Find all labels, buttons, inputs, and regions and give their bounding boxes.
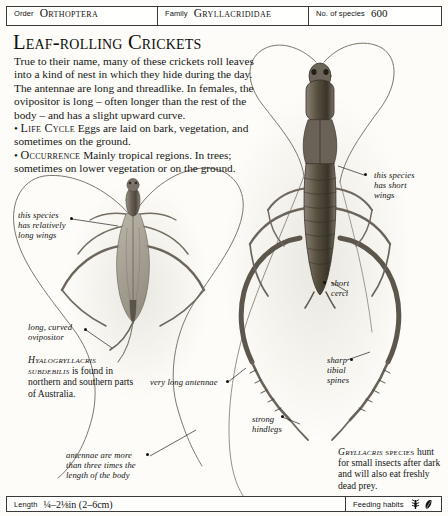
annotation-long-wings: this species has relatively long wings — [18, 210, 66, 240]
annotation-dot-antennae — [226, 380, 229, 383]
feeding-habits-icons — [411, 499, 433, 510]
life-cycle-bullet: • — [14, 122, 21, 134]
occurrence-bullet: • — [14, 149, 21, 161]
annotation-dot-short-wings — [364, 173, 367, 176]
length-label: Length — [14, 500, 38, 509]
life-cycle-heading: Life Cycle — [21, 121, 75, 135]
leaf-icon — [424, 499, 433, 510]
annotation-dot-antennae-length — [146, 453, 149, 456]
annotation-dot-cerci — [323, 281, 326, 284]
family-label: Family — [165, 9, 188, 18]
annotation-ovipositor: long, curved ovipositor — [28, 322, 72, 342]
family-value: Gryllacrididae — [194, 7, 272, 19]
annotation-very-long-antennae: very long antennae — [150, 377, 218, 387]
annotation-short-cerci: short cerci — [331, 278, 349, 298]
description-body: True to their name, many of these cricke… — [14, 55, 257, 176]
annotation-dot-hindlegs — [281, 415, 284, 418]
annotation-tibial-spines: sharp tibial spines — [327, 355, 349, 385]
order-label: Order — [14, 9, 34, 18]
order-cell: Order Orthoptera — [7, 7, 157, 25]
species-count-cell: No. of species 600 — [308, 7, 441, 25]
length-value: ¼–2⅛in (2–6cm) — [44, 499, 113, 510]
caption-right-species-name: Gryllacris — [338, 446, 383, 457]
occurrence-heading: Occurrence — [21, 148, 81, 162]
annotation-dot-ovipositor — [84, 328, 87, 331]
annotation-dot-long-wings — [70, 217, 73, 220]
species-count-label: No. of species — [316, 9, 365, 18]
feeding-habits-label: Feeding habits — [353, 500, 404, 509]
field-guide-page: Order Orthoptera Family Gryllacrididae N… — [0, 0, 448, 516]
leader-lines — [72, 166, 370, 456]
intro-paragraph: True to their name, many of these cricke… — [14, 55, 257, 122]
annotation-dot-tibial-spines — [350, 358, 353, 361]
caption-right-species-suffix: species — [385, 446, 414, 457]
insect-prey-icon — [411, 499, 420, 510]
caption-left-species: Hyalogryllacris subdebilis is found in n… — [28, 354, 140, 399]
life-cycle-paragraph: • Life Cycle Eggs are laid on bark, vege… — [14, 122, 257, 149]
measurements-footer: Length ¼–2⅛in (2–6cm) Feeding habits — [6, 496, 442, 512]
feeding-habits-cell: Feeding habits — [345, 497, 441, 511]
taxonomy-header: Order Orthoptera Family Gryllacrididae N… — [6, 6, 442, 26]
caption-right-species: Gryllacris species hunt for small insect… — [338, 446, 443, 491]
occurrence-paragraph: • Occurrence Mainly tropical regions. In… — [14, 149, 257, 176]
annotation-hindlegs: strong hindlegs — [252, 414, 282, 434]
family-cell: Family Gryllacrididae — [157, 7, 308, 25]
annotation-short-wings: this species has short wings — [374, 170, 415, 200]
length-cell: Length ¼–2⅛in (2–6cm) — [7, 497, 345, 511]
page-title: Leaf-rolling Crickets — [13, 31, 202, 54]
order-value: Orthoptera — [40, 7, 98, 19]
annotation-antennae-length: antennae are more than three times the l… — [66, 450, 136, 480]
species-count-value: 600 — [371, 7, 388, 19]
